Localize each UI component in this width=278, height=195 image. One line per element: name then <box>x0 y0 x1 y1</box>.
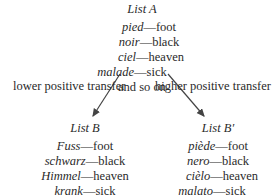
list-a-row: noir—black <box>79 35 205 50</box>
list-b-row: Fuss—foot <box>22 139 148 154</box>
list-b-title: List B <box>22 121 148 136</box>
list-b-prime-row: piède—foot <box>163 139 273 154</box>
list-b: List B Fuss—foot schwarz—black Himmel—he… <box>22 121 148 195</box>
list-b-prime: List B′ piède—foot nero—black cièlo—heav… <box>163 121 273 195</box>
list-b-prime-row: cièlo—heaven <box>163 169 273 184</box>
list-b-row: schwarz—black <box>22 154 148 169</box>
list-b-prime-title: List B′ <box>163 121 273 136</box>
list-b-row: krank—sick <box>22 184 148 195</box>
lower-transfer-label: lower positive transfer <box>13 79 125 94</box>
list-b-row: Himmel—heaven <box>22 169 148 184</box>
list-b-prime-row: malato—sick <box>163 184 273 195</box>
list-a-title: List A <box>79 2 205 17</box>
list-a-row: ciel—heaven <box>79 50 205 65</box>
list-a-row: malade—sick <box>79 65 205 80</box>
list-a-row: pied—foot <box>79 20 205 35</box>
higher-transfer-label: higher positive transfer <box>155 79 271 94</box>
list-b-prime-row: nero—black <box>163 154 273 169</box>
